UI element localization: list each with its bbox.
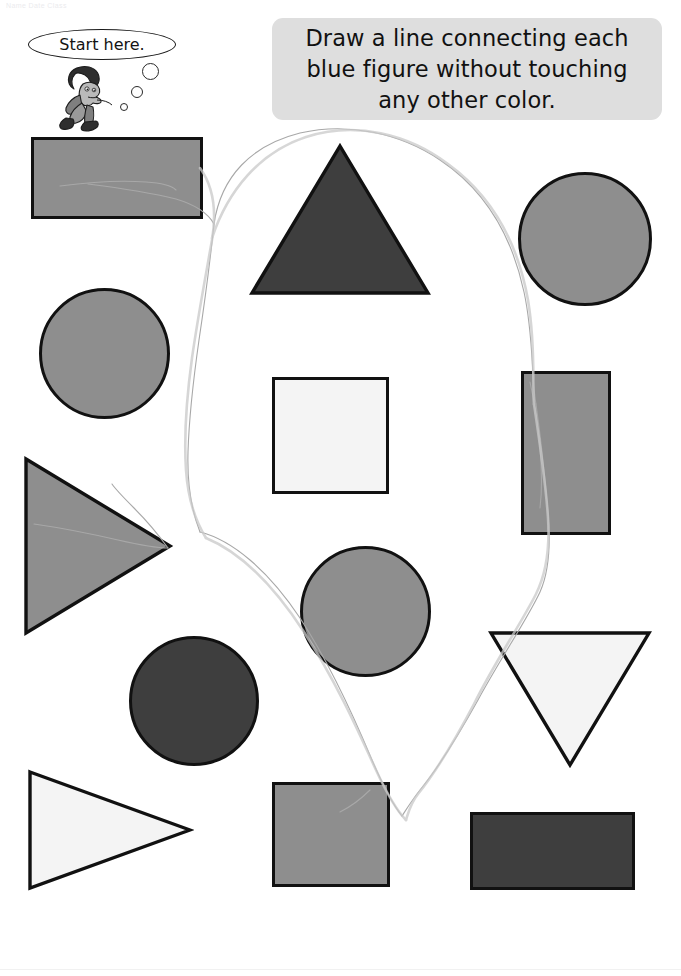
square-center [272, 377, 389, 494]
triangle-left [22, 455, 174, 637]
square-bottom-center [272, 782, 390, 887]
rect-bottom-right [470, 812, 635, 890]
circle-top-right [518, 172, 652, 306]
ghost-header-text: Name Date Class [6, 1, 426, 10]
worksheet-page: Name Date Class Draw a line connecting e… [0, 0, 681, 976]
circle-bottom-left [129, 636, 259, 766]
footer-rule [0, 969, 681, 970]
instruction-text: Draw a line connecting each blue figure … [272, 23, 662, 116]
circle-mid-left [39, 288, 170, 419]
boy-crouching-icon [55, 62, 127, 134]
triangle-right-down [487, 629, 653, 769]
start-here-balloon: Start here. [28, 29, 176, 60]
triangle-bottom-left [26, 768, 194, 892]
instruction-box: Draw a line connecting each blue figure … [272, 18, 662, 120]
circle-center [300, 546, 431, 677]
triangle-top-center [248, 142, 432, 297]
rect-top-left [31, 137, 203, 219]
thought-bubble-medium-icon [131, 86, 143, 98]
rect-right-vertical [521, 371, 611, 535]
thought-bubble-large-icon [142, 63, 159, 80]
start-here-label: Start here. [28, 29, 176, 60]
